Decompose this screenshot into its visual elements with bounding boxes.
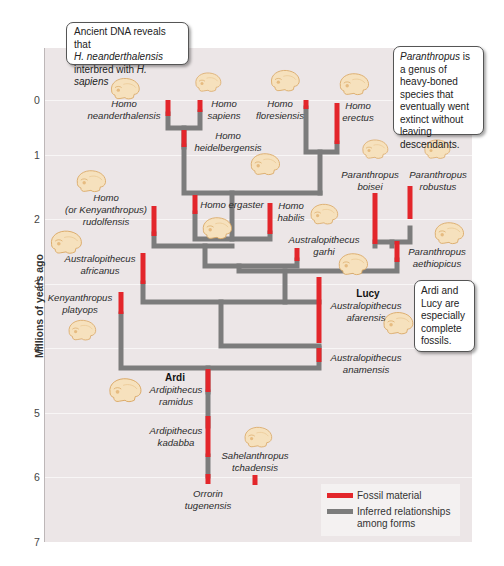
- species-text: tchadensis: [220, 462, 290, 474]
- species-text: habilis: [276, 212, 306, 224]
- callout-text: interbred with H. sapiens: [74, 64, 181, 89]
- skull-rudolfensis-icon: [77, 171, 105, 192]
- label-afarensis: Australopithecus afarensis: [326, 300, 406, 324]
- legend: Fossil material Inferred relationships a…: [321, 484, 460, 536]
- callout-italic-text: Paranthropus: [400, 51, 460, 62]
- label-rudolfensis: Homo (or Kenyanthropus) rudolfensis: [60, 192, 152, 228]
- label-tugenensis: Orrorin tugenensis: [180, 488, 236, 512]
- callout-neanderthal-dna: Ancient DNA reveals that H. neanderthale…: [66, 22, 189, 65]
- callout-ardi-lucy: Ardi and Lucy are especially complete fo…: [414, 280, 475, 352]
- species-text: boisei: [338, 181, 402, 193]
- species-text: erectus: [340, 112, 376, 124]
- species-text: ramidus: [146, 396, 206, 408]
- genus-text: Ardipithecus: [146, 425, 206, 437]
- genus-text: Homo: [84, 98, 164, 110]
- nickname-ardi: Ardi: [150, 372, 200, 383]
- species-text: afarensis: [326, 312, 406, 324]
- label-sapiens: Homo sapiens: [204, 98, 244, 122]
- genus-text: Kenyanthropus: [46, 292, 114, 304]
- skull-heidelbergensis-icon: [251, 154, 279, 175]
- species-text: anamensis: [326, 364, 406, 376]
- genus-text: Homo: [204, 98, 244, 110]
- skull-platyops-icon: [69, 320, 96, 340]
- callout-paranthropus: Paranthropus is a genus of heavy-boned s…: [393, 46, 484, 135]
- label-erectus: Homo erectus: [340, 100, 376, 124]
- genus-text: Homo: [254, 98, 306, 110]
- label-platyops: Kenyanthropus platyops: [46, 292, 114, 316]
- genus-text: Homo: [276, 200, 306, 212]
- label-africanus: Australopithecus africanus: [62, 253, 138, 277]
- callout-italic-text: H. neanderthalensis: [74, 51, 163, 62]
- genus-text: Australopithecus: [62, 253, 138, 265]
- genus-text: Homo: [188, 130, 268, 142]
- skull-sapiens-icon: [196, 73, 221, 91]
- genus-text: Australopithecus: [286, 234, 362, 246]
- species-text: Homo ergaster: [199, 199, 265, 211]
- label-anamensis: Australopithecus anamensis: [326, 352, 406, 376]
- species-text: tugenensis: [180, 500, 236, 512]
- legend-item-fossil: Fossil material: [327, 490, 421, 502]
- legend-label: Inferred relationships among forms: [357, 506, 450, 530]
- skull-ergaster-icon: [203, 218, 231, 239]
- legend-item-inferred: Inferred relationships among forms: [327, 506, 450, 530]
- label-robustus: Paranthropus robustus: [406, 169, 470, 193]
- skull-ramidus-icon: [110, 379, 141, 402]
- callout-plain-text: interbred with: [74, 64, 137, 75]
- genus-text: Paranthropus: [338, 169, 402, 181]
- genus-text: Paranthropus: [402, 246, 472, 258]
- species-text: rudolfensis: [60, 216, 152, 228]
- genus-text: Ardipithecus: [146, 384, 206, 396]
- species-text: sapiens: [204, 110, 244, 122]
- legend-label: Fossil material: [357, 490, 421, 502]
- genus-text: Paranthropus: [406, 169, 470, 181]
- skull-floresiensis-icon: [271, 70, 299, 91]
- alt-genus-text: (or Kenyanthropus): [60, 204, 152, 216]
- label-habilis: Homo habilis: [276, 200, 306, 224]
- genus-text: Sahelanthropus: [220, 450, 290, 462]
- callout-text: H. neanderthalensis: [74, 51, 181, 64]
- genus-text: Australopithecus: [326, 300, 406, 312]
- species-text: heidelbergensis: [188, 142, 268, 154]
- nickname-lucy: Lucy: [338, 288, 398, 299]
- legend-label-line: among forms: [357, 518, 450, 530]
- label-floresiensis: Homo floresiensis: [254, 98, 306, 122]
- species-text: africanus: [62, 265, 138, 277]
- species-text: floresiensis: [254, 110, 306, 122]
- legend-label-line: Inferred relationships: [357, 506, 450, 518]
- label-aethiopicus: Paranthropus aethiopicus: [402, 246, 472, 270]
- label-boisei: Paranthropus boisei: [338, 169, 402, 193]
- genus-text: Homo: [60, 192, 152, 204]
- label-garhi: Australopithecus garhi: [286, 234, 362, 258]
- species-text: platyops: [46, 304, 114, 316]
- species-text: garhi: [286, 246, 362, 258]
- fossil-swatch-icon: [327, 493, 353, 498]
- inferred-swatch-icon: [327, 509, 353, 514]
- skull-boisei-icon: [363, 140, 388, 158]
- skull-habilis-icon: [311, 204, 338, 224]
- label-kadabba: Ardipithecus kadabba: [146, 425, 206, 449]
- skull-erectus-icon: [340, 74, 368, 95]
- skull-africanus-icon: [51, 231, 81, 253]
- skull-tchadensis-icon: [245, 427, 272, 447]
- skull-aethiopicus-icon: [435, 223, 463, 244]
- label-neanderthalensis: Homo neanderthalensis: [84, 98, 164, 122]
- label-heidelbergensis: Homo heidelbergensis: [188, 130, 268, 154]
- callout-plain-text: Ardi and Lucy are especially complete fo…: [421, 285, 465, 346]
- callout-text: Ancient DNA reveals that: [74, 26, 181, 51]
- genus-text: Australopithecus: [326, 352, 406, 364]
- callout-plain-text: is a genus of heavy-boned species that e…: [400, 51, 470, 150]
- genus-text: Orrorin: [180, 488, 236, 500]
- species-text: kadabba: [146, 437, 206, 449]
- species-text: robustus: [406, 181, 470, 193]
- genus-text: Homo: [340, 100, 376, 112]
- species-text: neanderthalensis: [84, 110, 164, 122]
- label-tchadensis: Sahelanthropus tchadensis: [220, 450, 290, 474]
- label-ergaster: Homo ergaster: [199, 199, 265, 211]
- label-ramidus: Ardipithecus ramidus: [146, 384, 206, 408]
- species-text: aethiopicus: [402, 258, 472, 270]
